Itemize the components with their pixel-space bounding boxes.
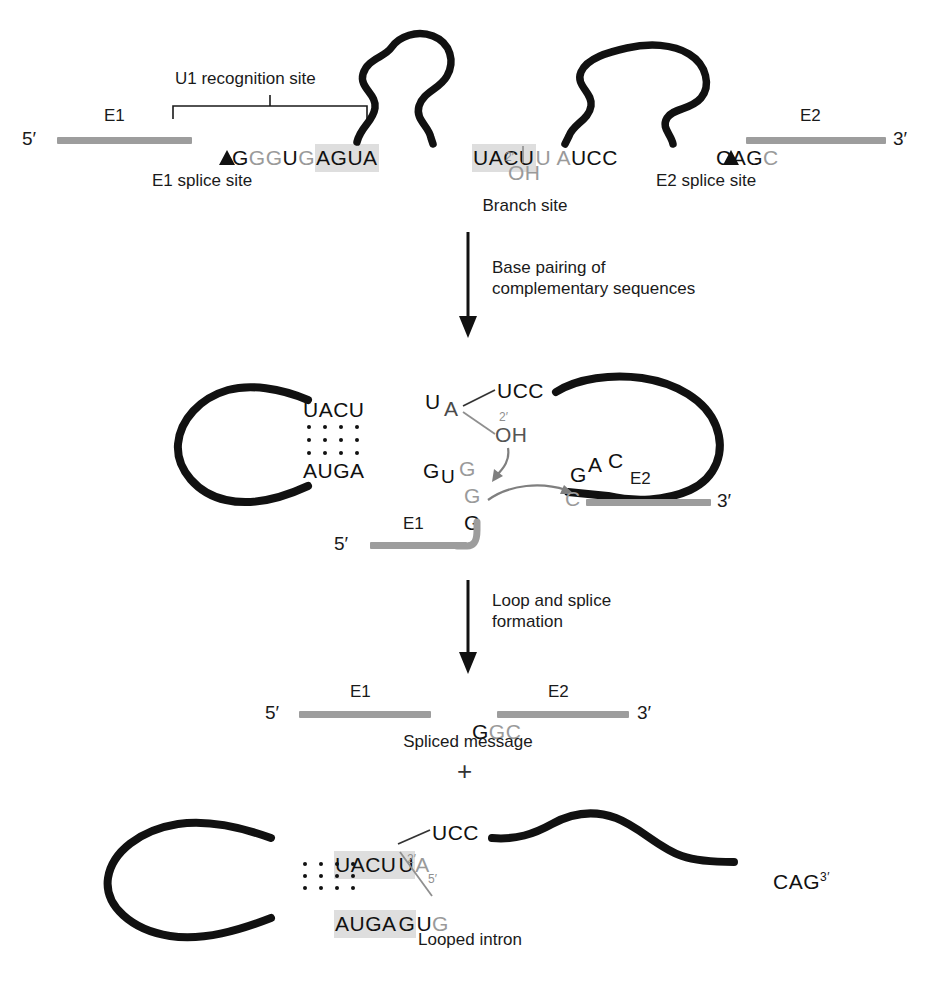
transition-1-line1: Base pairing of <box>492 257 605 278</box>
acceptor-seq-c: C <box>763 146 779 169</box>
exon2-label-panel2: E2 <box>630 468 651 489</box>
bp-column <box>335 862 339 890</box>
spliced-message-caption: Spliced message <box>368 732 568 752</box>
exon2-bar-panel2 <box>586 499 711 506</box>
lariat-cag: CAG <box>773 870 820 893</box>
lariat-3prime-sequence: CAG3′ <box>735 850 830 913</box>
panel2-acceptor-a: A <box>588 454 603 475</box>
panel2-donor-g-mid: G <box>464 485 481 506</box>
intron-left-loop-panel2 <box>100 382 310 510</box>
bp-column <box>355 425 359 455</box>
bp-column <box>303 862 307 890</box>
donor-seq-g2: G <box>249 146 266 169</box>
exon1-label-panel2: E1 <box>403 513 424 534</box>
panel2-2prime-label: 2′ <box>499 410 508 424</box>
plus-symbol: + <box>457 758 472 784</box>
lariat-5prime-label: 5′ <box>428 872 437 886</box>
three-prime-end-panel1: 3′ <box>893 128 907 150</box>
five-prime-end-panel1: 5′ <box>22 128 36 150</box>
transition-1: Base pairing of complementary sequences <box>0 232 930 347</box>
panel2-top-highlight: UACU <box>301 397 367 423</box>
transition-arrow-1 <box>455 232 481 340</box>
branch-seq-ucc: UCC <box>571 146 618 169</box>
bp-column <box>351 862 355 890</box>
exon2-bar-panel3 <box>497 711 629 718</box>
base-pair-dots-panel4 <box>303 862 355 890</box>
bp-column <box>323 425 327 455</box>
lariat-a-ucc-bond <box>396 826 436 848</box>
exon2-bar-panel1 <box>746 137 886 144</box>
transition-2: Loop and splice formation <box>0 580 930 680</box>
transition-2-line1: Loop and splice <box>492 590 611 611</box>
lariat-3prime-end: 3′ <box>820 870 830 884</box>
lariat-left-loop <box>58 818 273 943</box>
lariat-ucc: UCC <box>432 822 479 843</box>
panel2-acceptor-c: C <box>608 450 624 471</box>
transition-1-line2: complementary sequences <box>492 278 695 299</box>
donor-seq-g3: G <box>266 146 283 169</box>
e1-splice-site-label: E1 splice site <box>152 170 252 191</box>
exon1-bend-panel2 <box>455 522 485 550</box>
u1-recognition-site-label: U1 recognition site <box>175 68 316 89</box>
bp-column <box>339 425 343 455</box>
u1-recognition-bracket <box>170 92 370 120</box>
e2-splice-site-label: E2 splice site <box>656 170 756 191</box>
branch-site-caption: Branch site <box>455 196 595 216</box>
lariat-2prime-label: 2′ <box>407 852 416 866</box>
panel2-bottom-g1: G <box>423 460 440 481</box>
exon1-bar-panel1 <box>57 137 192 144</box>
donor-seq-u: U <box>283 146 299 169</box>
panel2-top-ucc: UCC <box>497 380 544 401</box>
panel2-branch-a: A <box>444 398 459 419</box>
five-prime-end-panel2: 5′ <box>334 533 348 555</box>
exon1-bar-panel3 <box>299 711 431 718</box>
exon1-bar-panel2 <box>370 542 467 549</box>
donor-seq-highlight: AGUA <box>315 144 379 172</box>
lariat-3prime-tail <box>490 812 740 874</box>
panel2-acceptor-c-gray: C <box>565 488 581 509</box>
panel-base-paired: UACU AUGA U A UCC <box>0 370 930 570</box>
panel2-bottom-g2: G <box>459 458 476 479</box>
panel2-a-ucc-bond <box>461 386 501 410</box>
bp-column <box>307 425 311 455</box>
three-prime-end-panel2: 3′ <box>717 490 731 512</box>
three-prime-end-panel3: 3′ <box>637 702 651 724</box>
bp-column <box>319 862 323 890</box>
splicing-figure: U1 recognition site 5′ E1 GGGUGAGUA E1 s… <box>0 0 930 986</box>
exon2-label-panel1: E2 <box>800 105 821 126</box>
panel2-top-u: U <box>425 391 441 412</box>
exon1-label-panel3: E1 <box>350 681 371 702</box>
e2-splice-site-arrowhead <box>722 150 740 166</box>
panel-looped-intron: UACUUA AUGAGUG 2′ 5′ <box>0 800 930 986</box>
branch-seq-a: A <box>556 146 571 169</box>
panel2-oh-label: OH <box>495 424 528 445</box>
e1-splice-site-arrowhead <box>218 150 236 166</box>
looped-intron-caption: Looped intron <box>380 930 560 950</box>
panel-spliced-message: 5′ E1 GGC E2 3′ Spliced message <box>0 684 930 754</box>
branch-oh-label: OH <box>508 162 541 183</box>
panel-pre-mrna: U1 recognition site 5′ E1 GGGUGAGUA E1 s… <box>0 0 930 215</box>
five-prime-end-panel3: 5′ <box>265 702 279 724</box>
panel2-bottom-highlight: AUGA <box>301 458 367 484</box>
exon2-label-panel3: E2 <box>548 681 569 702</box>
base-pair-dots-panel2 <box>307 425 359 455</box>
panel2-acceptor-g: G <box>570 464 587 485</box>
panel2-bottom-u: U <box>441 467 455 486</box>
exon1-label-panel1: E1 <box>104 105 125 126</box>
donor-seq-g4: G <box>298 146 315 169</box>
transition-arrow-2 <box>455 580 481 676</box>
transition-2-line2: formation <box>492 611 563 632</box>
